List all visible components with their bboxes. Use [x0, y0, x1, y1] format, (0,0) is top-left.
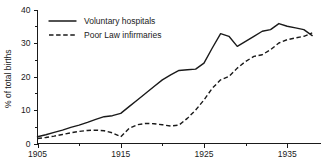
x-tick-label: 1925 — [195, 149, 214, 159]
chart-figure: 010203040 1905191519251935 % of total bi… — [0, 0, 328, 165]
x-tick-label: 1905 — [28, 149, 47, 159]
series-line-1 — [38, 24, 313, 137]
y-tick-label: 30 — [21, 38, 31, 48]
data-series-group — [38, 24, 313, 139]
y-tick-label: 40 — [21, 5, 31, 15]
y-axis-ticks — [34, 11, 38, 145]
legend-label-1: Voluntary hospitals — [84, 16, 155, 26]
series-line-2 — [38, 33, 313, 139]
y-tick-label: 20 — [21, 72, 31, 82]
y-axis-tick-labels: 010203040 — [21, 5, 31, 149]
x-axis-tick-labels: 1905191519251935 — [28, 149, 297, 159]
x-axis-ticks — [39, 144, 288, 148]
y-tick-label: 10 — [21, 105, 31, 115]
x-tick-label: 1915 — [111, 149, 130, 159]
line-chart: 010203040 1905191519251935 % of total bi… — [0, 0, 328, 165]
y-axis-title: % of total births — [3, 49, 13, 108]
chart-legend: Voluntary hospitalsPoor Law infirmaries — [49, 16, 161, 40]
axes — [38, 10, 321, 144]
legend-label-2: Poor Law infirmaries — [84, 30, 161, 40]
x-tick-label: 1935 — [278, 149, 297, 159]
y-tick-label: 0 — [26, 139, 31, 149]
